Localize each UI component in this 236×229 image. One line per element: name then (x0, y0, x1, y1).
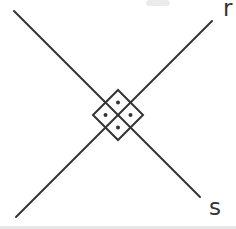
geometry-figure: r s (0, 0, 236, 229)
figure-canvas: r s (0, 0, 236, 229)
cell-dot-bottom (116, 126, 120, 130)
cell-dot-right (129, 113, 133, 117)
line-r (16, 21, 212, 217)
line-label-r: r (223, 0, 233, 21)
scan-smudge (146, 0, 170, 6)
cell-dot-top (116, 101, 120, 105)
cell-dot-left (104, 113, 108, 117)
line-s (14, 11, 200, 197)
scan-edge-shadow (0, 226, 236, 229)
line-label-s: s (209, 194, 221, 220)
